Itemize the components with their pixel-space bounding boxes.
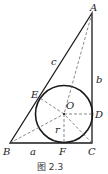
label-f: F [58,146,67,157]
geometry-figure: A B C O D E F a b c r 图 2.3 [0,0,108,174]
side-label-b: b [96,74,102,85]
radius-label-r: r [55,124,61,135]
label-a: A [89,2,97,13]
label-o: O [66,100,74,111]
label-d: D [94,109,103,120]
triangle-abc [10,13,92,143]
center-point-o [63,113,65,115]
label-b: B [2,146,10,157]
side-label-c: c [51,56,57,67]
label-e: E [30,89,39,100]
line-oe [40,98,64,114]
figure-caption: 图 2.3 [37,162,63,172]
side-label-a: a [30,146,36,157]
label-c: C [88,146,96,157]
